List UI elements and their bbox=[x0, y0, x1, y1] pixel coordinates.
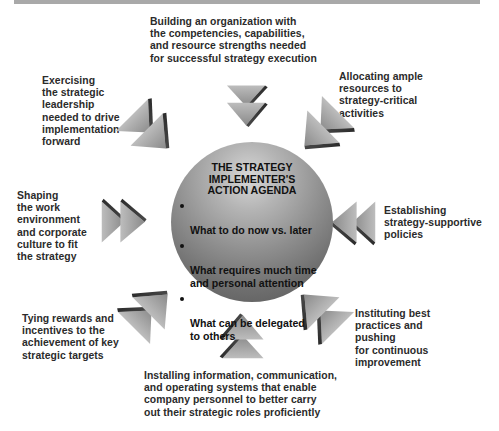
bullet-dot-icon bbox=[180, 204, 184, 208]
center-sphere: THE STRATEGY IMPLEMENTER'S ACTION AGENDA… bbox=[171, 142, 333, 302]
center-bullet-text: What can be delegated to others bbox=[190, 317, 305, 342]
center-bullet-list: What to do now vs. later What requires m… bbox=[177, 199, 333, 345]
center-bullet-item: What can be delegated to others bbox=[177, 292, 333, 342]
center-title: THE STRATEGY IMPLEMENTER'S ACTION AGENDA bbox=[171, 162, 333, 197]
center-bullet-text: What to do now vs. later bbox=[190, 224, 312, 236]
node-bottom-right-text: Instituting best practices and pushing f… bbox=[355, 308, 430, 369]
double-chevron-arrow-icon-top bbox=[220, 77, 272, 139]
top-gray-bar bbox=[14, 0, 480, 4]
center-bullet-item: What requires much time and personal att… bbox=[177, 239, 333, 289]
bullet-dot-icon bbox=[180, 297, 184, 301]
node-top-left-text: Exercising the strategic leadership need… bbox=[42, 75, 120, 148]
node-left-text: Shaping the work environment and corpora… bbox=[17, 190, 87, 263]
center-bullet-text: What requires much time and personal att… bbox=[190, 264, 317, 289]
node-top-text: Building an organization with the compet… bbox=[150, 16, 317, 65]
node-bottom-text: Installing information, communication, a… bbox=[144, 370, 337, 419]
node-bottom-left-text: Tying rewards and incentives to the achi… bbox=[22, 313, 119, 362]
bullet-dot-icon bbox=[180, 244, 184, 248]
node-top-right-text: Allocating ample resources to strategy-c… bbox=[339, 71, 423, 120]
center-bullet-item: What to do now vs. later bbox=[177, 199, 333, 237]
double-chevron-arrow-icon-left bbox=[97, 194, 155, 250]
node-right-text: Establishing strategy-supportive policie… bbox=[384, 205, 482, 242]
